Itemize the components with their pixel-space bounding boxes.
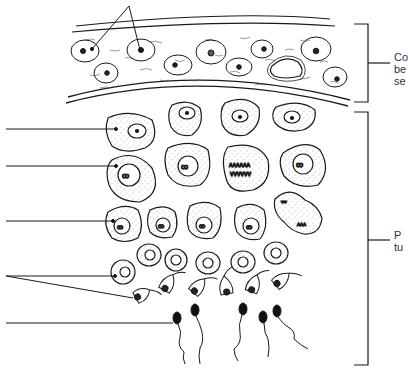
spermatogonium xyxy=(221,99,259,135)
secondary-spermatocyte: ꝏ xyxy=(148,207,177,238)
spermatid-round xyxy=(165,249,187,271)
svg-text:ꝏ: ꝏ xyxy=(158,223,164,229)
dividing-spermatocyte-anaphase: ᵥᵥᵥ ʌʌʌ xyxy=(274,192,322,234)
label-line: be xyxy=(394,63,408,75)
interstitial-cells xyxy=(71,37,347,87)
svg-text:ᵥᵥᵥ: ᵥᵥᵥ xyxy=(280,198,287,204)
spermatid-round xyxy=(231,251,255,273)
label-line: P xyxy=(394,229,403,241)
label-line: tu xyxy=(394,241,403,253)
svg-text:ꝏ: ꝏ xyxy=(246,224,252,230)
spermatid-round xyxy=(137,244,161,266)
svg-text:ꝏ: ꝏ xyxy=(296,161,303,168)
primary-spermatocyte: ꝏ xyxy=(107,156,155,203)
secondary-spermatocyte: ꝏ xyxy=(187,202,221,238)
svg-text:ꝏ: ꝏ xyxy=(122,172,129,179)
svg-text:ʌʌʌ: ʌʌʌ xyxy=(297,221,306,227)
blood-vessel xyxy=(270,59,302,78)
spermatozoa xyxy=(173,303,308,364)
bracket-connective-tissue xyxy=(354,24,368,102)
label-line: Co xyxy=(394,51,408,63)
germinal-epithelium: ꝏ ꝏ ʌʌʌʌʌʌ vvvvvv ꝏ ᵥᵥᵥ ʌʌʌ ꝏ ꝏ xyxy=(106,99,326,284)
secondary-spermatocyte: ꝏ xyxy=(106,206,142,241)
spermatogonium xyxy=(106,113,155,151)
svg-text:ꝏ: ꝏ xyxy=(117,224,123,230)
interstitial-cell xyxy=(323,67,347,87)
primary-spermatocyte: ꝏ xyxy=(165,143,210,186)
label-line: se xyxy=(394,75,408,87)
svg-text:ꝏ: ꝏ xyxy=(181,163,188,170)
svg-text:vvvvvv: vvvvvv xyxy=(230,170,252,177)
spermatogonium xyxy=(169,102,202,136)
bracket-seminiferous-tubule xyxy=(354,112,368,365)
label-connective-tissue: Co be se xyxy=(394,51,408,87)
spermatogonium xyxy=(273,103,316,131)
spermatid-round xyxy=(264,242,288,264)
label-seminiferous-tubule: P tu xyxy=(394,229,403,253)
secondary-spermatocyte: ꝏ xyxy=(235,204,266,239)
svg-text:ꝏ: ꝏ xyxy=(199,223,205,229)
interstitial-cell xyxy=(164,55,192,75)
primary-spermatocyte: ꝏ xyxy=(280,145,325,187)
spermatid-round xyxy=(111,260,135,284)
right-brackets xyxy=(354,24,390,365)
spermatid-round xyxy=(196,252,220,274)
dividing-spermatocyte-metaphase: ʌʌʌʌʌʌ vvvvvv xyxy=(223,145,268,191)
svg-text:ʌʌʌʌʌʌ: ʌʌʌʌʌʌ xyxy=(229,161,251,168)
